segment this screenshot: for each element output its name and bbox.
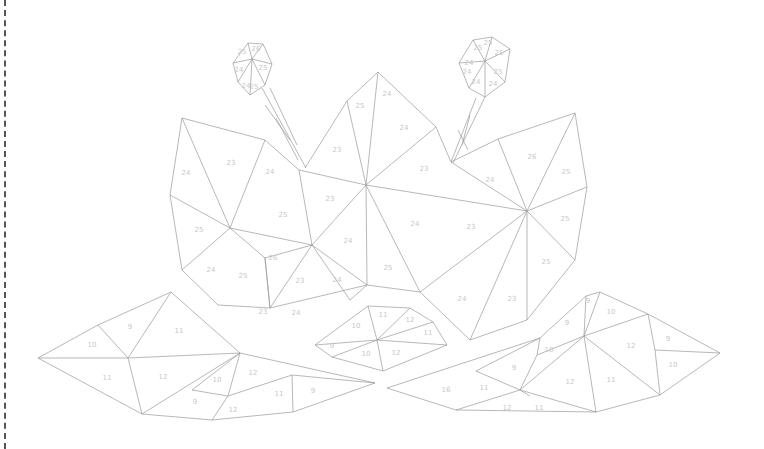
region-number: 10 [362,350,371,358]
region-number: 9 [193,398,197,406]
region-number: 9 [512,364,516,372]
outline-segment [270,88,297,145]
outline-segment [98,292,171,358]
region-number: 11 [379,311,388,319]
region-number: 24 [207,266,216,274]
region-number: 12 [159,373,168,381]
outline-segment [170,118,230,228]
region-number: 10 [88,341,97,349]
outline-segment [142,353,375,420]
outline-segment [305,72,527,211]
outline-segment [520,390,530,396]
region-number: 25 [356,102,365,110]
region-number: 25 [562,168,571,176]
region-number: 12 [566,378,575,386]
outline-segment [38,292,240,414]
region-number: 25 [484,39,493,47]
region-number: 24 [463,68,472,76]
outline-segment [527,113,575,211]
region-number: 9 [330,342,334,350]
region-number: 25 [495,49,504,57]
region-number: 26 [252,45,261,53]
outline-segment [312,185,367,285]
region-number: 23 [227,159,236,167]
region-number: 25 [238,48,247,56]
outline-segment [299,170,366,245]
outline-segment [128,358,142,414]
outline-segment [366,72,378,185]
region-number: 12 [503,404,512,412]
region-number: 9 [666,335,670,343]
outline-lines [38,37,720,420]
region-number: 23 [467,223,476,231]
region-number: 25 [259,64,268,72]
outline-segment [182,228,270,308]
outline-segment [476,338,540,371]
outline-segment [584,336,596,412]
region-number: 25 [250,83,259,91]
region-number: 24 [472,78,481,86]
outline-segment [315,306,377,345]
outline-segment [366,185,420,292]
region-number: 24 [400,124,409,132]
region-number: 25 [561,215,570,223]
outline-segment [192,353,240,390]
region-number: 23 [420,165,429,173]
region-number: 16 [442,386,451,394]
region-number: 9 [311,387,315,395]
outline-segment [584,314,648,336]
outline-segment [420,113,587,340]
region-number: 25 [542,258,551,266]
region-number: 12 [249,369,258,377]
region-number: 10 [213,376,222,384]
outline-segment [387,292,720,412]
outline-segment [347,101,366,185]
outline-segment [655,350,660,395]
outline-segment [520,338,596,412]
region-number: 25 [279,211,288,219]
region-number: 24 [344,237,353,245]
region-number: 25 [239,272,248,280]
outline-segment [584,336,660,395]
region-number: 23 [259,308,268,316]
region-number: 10 [352,322,361,330]
region-number: 11 [275,390,284,398]
region-number: 9 [565,319,569,327]
region-number: 24 [266,168,275,176]
outline-segment [498,139,527,211]
region-number: 25 [474,44,483,52]
outline-segment [527,187,587,211]
outline-segment [265,258,367,308]
outline-segment [292,375,375,383]
region-number: 12 [627,342,636,350]
region-number: 11 [535,404,544,412]
region-number: 9 [586,297,590,305]
outline-segment [262,88,306,168]
region-number: 24 [235,66,244,74]
lotus-outline-drawing: 2526242524252525242524252424242324252524… [0,0,764,449]
region-number: 23 [296,277,305,285]
region-number: 26 [269,254,278,262]
outline-segment [451,98,476,162]
region-number: 25 [384,264,393,272]
region-number: 24 [411,220,420,228]
region-number: 11 [424,329,433,337]
region-number: 26 [528,153,537,161]
region-number: 24 [458,295,467,303]
region-number: 10 [607,308,616,316]
region-number: 24 [465,59,474,67]
outline-segment [38,353,240,358]
region-number: 11 [175,327,184,335]
region-number: 23 [508,295,517,303]
outline-segment [230,140,265,228]
region-number: 10 [545,346,554,354]
region-number: 11 [480,384,489,392]
region-number: 9 [128,323,132,331]
region-number: 11 [103,374,112,382]
region-number: 25 [195,226,204,234]
region-number: 25 [494,68,503,76]
region-number: 24 [383,90,392,98]
outline-segment [377,340,383,371]
region-number: 23 [333,146,342,154]
region-number: 24 [486,176,495,184]
